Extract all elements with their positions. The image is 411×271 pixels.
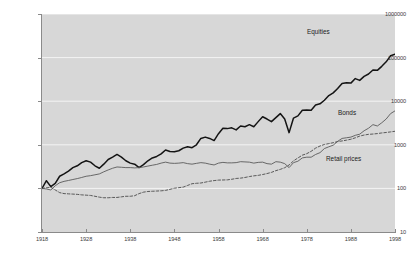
x-tick-label: 1918 (25, 236, 59, 242)
gridlines (42, 14, 395, 188)
x-tick-label: 1928 (69, 236, 103, 242)
x-tick-mark (86, 229, 87, 233)
y-tick-label: 1000 (368, 142, 406, 148)
x-tick-mark (395, 229, 396, 233)
x-tick-label: 1968 (246, 236, 280, 242)
x-tick-mark (174, 229, 175, 233)
y-tick-mark (38, 14, 42, 15)
y-axis-line (41, 14, 42, 233)
y-tick-label: 100000 (368, 55, 406, 61)
y-tick-mark (38, 145, 42, 146)
x-tick-mark (130, 229, 131, 233)
x-tick-mark (219, 229, 220, 233)
x-tick-mark (307, 229, 308, 233)
y-tick-mark (38, 58, 42, 59)
series-label-bonds: Bonds (338, 109, 356, 116)
y-tick-label: 100 (368, 185, 406, 191)
x-tick-mark (351, 229, 352, 233)
series-label-equities: Equities (307, 28, 330, 35)
series-label-retail-prices: Retail prices (326, 155, 361, 162)
x-tick-label: 1948 (157, 236, 191, 242)
y-tick-label: 10 (368, 229, 406, 235)
x-tick-label: 1938 (113, 236, 147, 242)
plot-area (42, 14, 395, 232)
y-tick-mark (38, 188, 42, 189)
x-tick-label: 1998 (378, 236, 411, 242)
plot-canvas (42, 14, 395, 232)
series-paths (42, 54, 395, 198)
series-line-equities (42, 54, 395, 188)
y-tick-label: 1000000 (368, 11, 406, 17)
x-tick-mark (263, 229, 264, 233)
x-tick-label: 1988 (334, 236, 368, 242)
series-line-retail-prices (42, 131, 395, 197)
x-tick-label: 1958 (202, 236, 236, 242)
series-line-bonds (42, 111, 395, 190)
y-tick-label: 10000 (368, 98, 406, 104)
x-tick-label: 1978 (290, 236, 324, 242)
y-tick-mark (38, 101, 42, 102)
x-tick-mark (42, 229, 43, 233)
